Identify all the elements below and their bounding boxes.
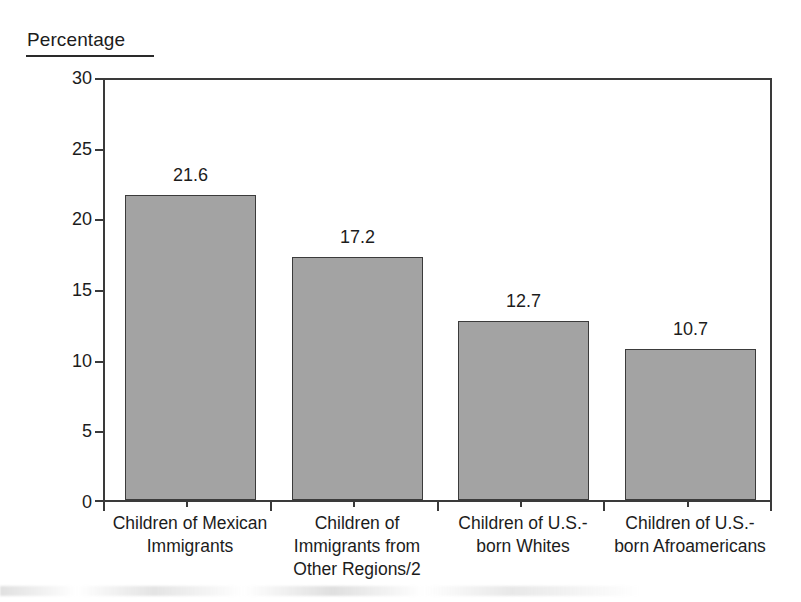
bar-value-label-0: 21.6 [173,165,208,186]
bar-chart-figure: Percentage 30 25 20 15 10 5 0 [0,0,801,602]
plot-frame-top [103,78,772,80]
bar-children-of-us-born-afroamericans [625,349,756,500]
y-tick-0 [95,500,103,502]
y-tick-label-25: 25 [52,138,92,159]
plot-frame-right [770,78,772,502]
x-tick-boundary-2 [437,500,439,511]
y-axis-tick-labels: 30 25 20 15 10 5 0 [44,78,92,502]
y-axis-title-underline [26,55,154,57]
y-tick-label-10: 10 [52,350,92,371]
x-tick-center-0 [186,500,188,507]
y-tick-label-20: 20 [52,209,92,230]
y-tick-label-15: 15 [52,280,92,301]
bar-children-of-immigrants-other-regions [292,257,423,500]
bar-value-label-2: 12.7 [506,291,541,312]
scan-artifact [0,586,640,596]
y-tick-label-30: 30 [52,68,92,89]
bar-value-label-3: 10.7 [673,319,708,340]
y-tick-15 [95,290,103,292]
bar-children-of-us-born-whites [458,321,589,501]
x-tick-boundary-4 [770,500,772,511]
x-tick-boundary-0 [103,500,105,511]
y-axis-title: Percentage [27,29,125,51]
y-tick-5 [95,431,103,433]
bar-value-label-1: 17.2 [340,227,375,248]
x-tick-boundary-1 [270,500,272,511]
x-category-label-3: Children of U.S.- born Afroamericans [583,512,798,558]
plot-area: 21.6 17.2 12.7 10.7 [103,78,772,502]
x-tick-center-3 [687,500,689,507]
y-tick-30 [95,78,103,80]
x-tick-center-1 [353,500,355,507]
y-tick-20 [95,219,103,221]
y-tick-25 [95,149,103,151]
y-tick-label-5: 5 [52,421,92,442]
x-tick-center-2 [520,500,522,507]
x-tick-boundary-3 [603,500,605,511]
bar-children-of-mexican-immigrants [125,195,256,500]
y-tick-10 [95,361,103,363]
y-axis-line [103,78,105,502]
y-tick-label-0: 0 [52,492,92,513]
